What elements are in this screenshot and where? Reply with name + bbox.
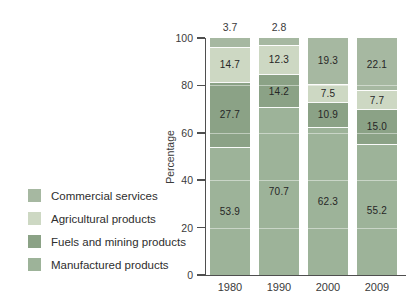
- gridline: [206, 133, 406, 134]
- segment-value-label: 10.9: [318, 109, 338, 120]
- legend-swatch: [28, 212, 41, 225]
- legend-swatch: [28, 258, 41, 271]
- bar-segment: 14.2: [259, 74, 299, 108]
- segment-value-label-outside: 2.8: [259, 21, 299, 33]
- y-axis-tick: [197, 274, 205, 276]
- bar-segment: 12.3: [259, 45, 299, 74]
- segment-value-label: 14.2: [269, 86, 289, 97]
- x-axis-category-label: 1980: [205, 281, 255, 293]
- gridline: [206, 228, 406, 229]
- legend-swatch: [28, 189, 41, 202]
- legend-item: Commercial services: [28, 184, 186, 207]
- x-axis-category-label: 1990: [254, 281, 304, 293]
- bar-1990: 70.714.212.3: [259, 38, 299, 275]
- bar-1980: 53.927.714.7: [210, 38, 250, 275]
- figure: Commercial servicesAgricultural products…: [0, 0, 416, 306]
- y-axis-tick: [197, 179, 205, 181]
- legend-swatch: [28, 235, 41, 248]
- y-axis-tick: [197, 37, 205, 39]
- y-axis-tick-label: 80: [159, 78, 193, 92]
- bar-segment: 53.9: [210, 147, 250, 275]
- bar-segment: 62.3: [308, 127, 348, 275]
- segment-value-label: 27.7: [220, 109, 240, 120]
- segment-value-label: 12.3: [269, 54, 289, 65]
- segment-value-label: 14.7: [220, 59, 240, 70]
- bar-segment: 22.1: [357, 38, 397, 90]
- segment-value-label: 55.2: [367, 205, 387, 216]
- segment-value-label: 70.7: [269, 186, 289, 197]
- segment-value-label: 62.3: [318, 196, 338, 207]
- bar-segment: 19.3: [308, 38, 348, 84]
- y-axis-tick-label: 20: [159, 221, 193, 235]
- segment-value-label: 53.9: [220, 206, 240, 217]
- bar-segment: 14.7: [210, 47, 250, 82]
- bar-segment: [210, 38, 250, 47]
- legend-item-label: Commercial services: [51, 190, 158, 202]
- y-axis-tick-label: 40: [159, 173, 193, 187]
- x-axis-category-label: 2000: [303, 281, 353, 293]
- y-axis-tick: [197, 85, 205, 87]
- segment-value-label: 7.5: [321, 88, 336, 99]
- bar-segment: 15.0: [357, 109, 397, 145]
- segment-value-label-outside: 3.7: [210, 21, 250, 33]
- bar-2009: 55.215.07.722.1: [357, 38, 397, 275]
- y-axis-tick-label: 0: [159, 268, 193, 282]
- bar-segment: [259, 38, 299, 45]
- bar-segment: 55.2: [357, 144, 397, 275]
- y-axis-tick: [197, 132, 205, 134]
- y-axis-tick-label: 60: [159, 126, 193, 140]
- gridline: [206, 85, 406, 86]
- bar-segment: 27.7: [210, 82, 250, 148]
- bar-2000: 62.310.97.519.3: [308, 38, 348, 275]
- bar-segment: 7.7: [357, 90, 397, 108]
- segment-value-label: 19.3: [318, 55, 338, 66]
- bar-segment: 7.5: [308, 84, 348, 102]
- x-axis-category-label: 2009: [352, 281, 402, 293]
- bar-segment: 10.9: [308, 102, 348, 128]
- legend-item-label: Manufactured products: [51, 259, 169, 271]
- segment-value-label: 22.1: [367, 59, 387, 70]
- legend-item-label: Fuels and mining products: [51, 236, 186, 248]
- plot-area: 0204060801003.753.927.714.719802.870.714…: [205, 38, 406, 276]
- y-axis-tick-label: 100: [159, 31, 193, 45]
- segment-value-label: 15.0: [367, 121, 387, 132]
- segment-value-label: 7.7: [370, 95, 385, 106]
- y-axis-tick: [197, 227, 205, 229]
- legend-item-label: Agricultural products: [51, 213, 156, 225]
- gridline: [206, 180, 406, 181]
